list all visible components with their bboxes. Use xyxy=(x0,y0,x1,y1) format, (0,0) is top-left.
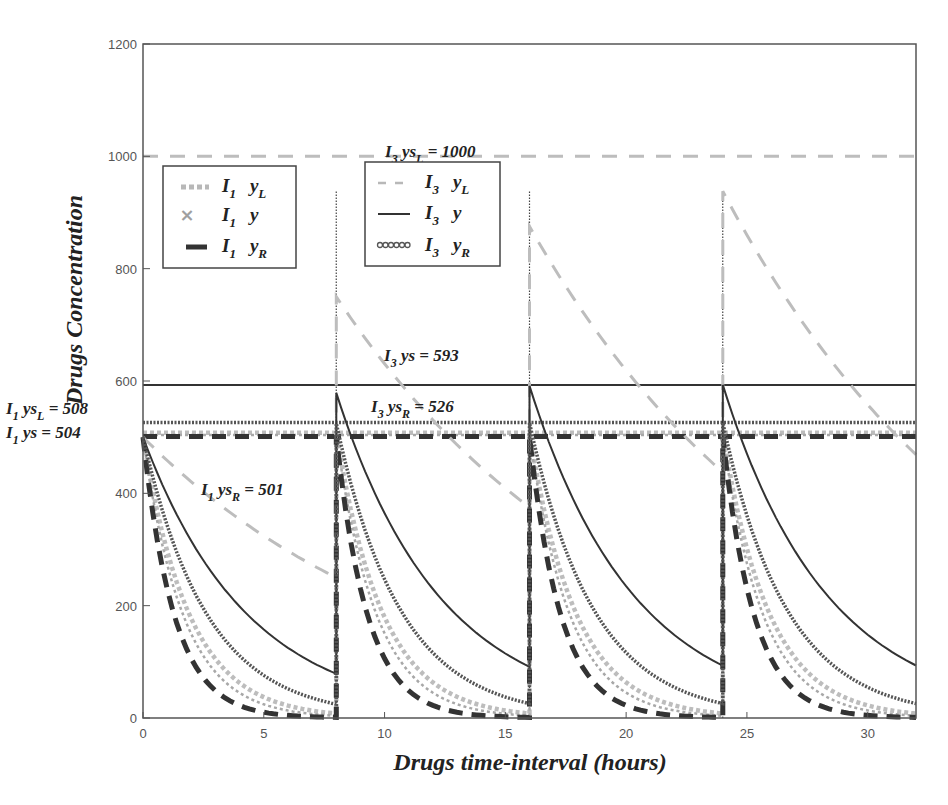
annotation-i3-ys: I3 ys = 593 xyxy=(383,346,459,370)
y-tick-label: 800 xyxy=(115,262,137,277)
x-tick-label: 15 xyxy=(498,726,512,741)
x-tick-label: 20 xyxy=(619,726,633,741)
x-tick-label: 30 xyxy=(860,726,874,741)
annotation-i1-ys: I1 ys = 504 xyxy=(5,423,81,447)
y-tick-label: 1000 xyxy=(108,149,137,164)
axis-ticks: 051015202530020040060080010001200 xyxy=(108,37,875,741)
y-tick-label: 0 xyxy=(130,711,137,726)
y-tick-label: 1200 xyxy=(108,37,137,52)
y-tick-label: 400 xyxy=(115,486,137,501)
y-tick-label: 200 xyxy=(115,599,137,614)
x-tick-label: 5 xyxy=(260,726,267,741)
legend-i3: I3yLI3yI3yR xyxy=(365,162,500,266)
x-axis-label: Drugs time-interval (hours) xyxy=(392,749,666,775)
legend-swatch-x-marker: × xyxy=(179,204,194,225)
chart: 051015202530020040060080010001200 Drugs … xyxy=(0,0,948,805)
x-tick-label: 10 xyxy=(377,726,391,741)
annotation-i3-ysr: I3 ysR = 526 xyxy=(370,397,454,421)
y-axis-label: Drugs Concentration xyxy=(61,195,87,406)
x-tick-label: 25 xyxy=(740,726,754,741)
series-i3-yr xyxy=(143,423,916,705)
annotation-i1-ysl: I1 ysL = 508 xyxy=(5,399,89,423)
annotation-i1-ysr: I1 ysR = 501 xyxy=(200,480,284,504)
x-tick-label: 0 xyxy=(139,726,146,741)
legend-i1: × I1yLI1yI1yR xyxy=(163,166,296,268)
y-tick-label: 600 xyxy=(115,374,137,389)
